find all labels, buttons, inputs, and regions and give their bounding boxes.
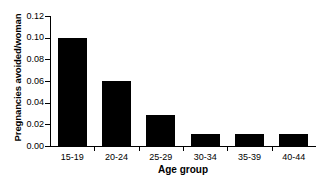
y-axis-tick-label: 0.00 bbox=[16, 142, 44, 151]
bar bbox=[58, 38, 87, 146]
bar bbox=[279, 134, 308, 146]
y-axis-tick-label: 0.08 bbox=[16, 55, 44, 64]
x-axis-tick-label: 15-19 bbox=[50, 152, 94, 162]
y-axis-tick-labels: 0.000.020.040.060.080.100.12 bbox=[16, 0, 44, 193]
x-axis-tick-label: 20-24 bbox=[94, 152, 138, 162]
caption-sliver bbox=[6, 187, 320, 193]
x-axis-tick-label: 25-29 bbox=[139, 152, 183, 162]
y-axis-tick-label: 0.04 bbox=[16, 98, 44, 107]
x-axis-tick-mark bbox=[227, 147, 228, 151]
bar-series bbox=[50, 16, 316, 146]
y-axis-tick-label: 0.02 bbox=[16, 120, 44, 129]
bar-chart-figure: Pregnancies avoided/woman 0.000.020.040.… bbox=[0, 0, 326, 193]
y-axis-tick-label: 0.06 bbox=[16, 77, 44, 86]
x-axis-tick-mark bbox=[94, 147, 95, 151]
y-axis-tick-label: 0.10 bbox=[16, 33, 44, 42]
bar bbox=[102, 81, 131, 146]
x-axis-tick-label: 35-39 bbox=[227, 152, 271, 162]
x-axis-title: Age group bbox=[50, 164, 316, 175]
x-axis-tick-label: 30-34 bbox=[183, 152, 227, 162]
bar bbox=[191, 134, 220, 146]
x-axis-tick-mark bbox=[139, 147, 140, 151]
x-axis-tick-mark bbox=[183, 147, 184, 151]
bar bbox=[146, 115, 175, 146]
bar bbox=[235, 134, 264, 146]
x-axis-tick-label: 40-44 bbox=[272, 152, 316, 162]
x-axis-tick-labels: 15-1920-2425-2930-3435-3940-44 bbox=[50, 152, 316, 164]
x-axis-tick-mark bbox=[272, 147, 273, 151]
y-axis-tick-mark bbox=[45, 146, 50, 147]
y-axis-tick-label: 0.12 bbox=[16, 12, 44, 21]
